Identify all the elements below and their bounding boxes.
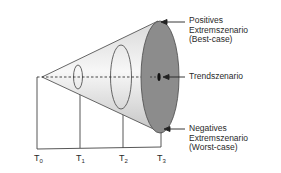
worst-case-label: Negatives Extremszenario (Worst-case) (189, 124, 248, 153)
tick-t3: T3 (157, 153, 166, 164)
baseline (37, 147, 161, 149)
tick-t1: T1 (76, 153, 85, 164)
tick-t0: T0 (34, 153, 43, 164)
trend-label: Trendszenario (189, 72, 243, 82)
trend-marker (157, 73, 160, 81)
best-case-label: Positives Extremszenario (Best-case) (189, 16, 248, 45)
best-case-line3: (Best-case) (189, 35, 248, 45)
worst-case-line3: (Worst-case) (189, 143, 248, 153)
tick-t2: T2 (119, 153, 128, 164)
trend-line1: Trendszenario (189, 72, 243, 82)
